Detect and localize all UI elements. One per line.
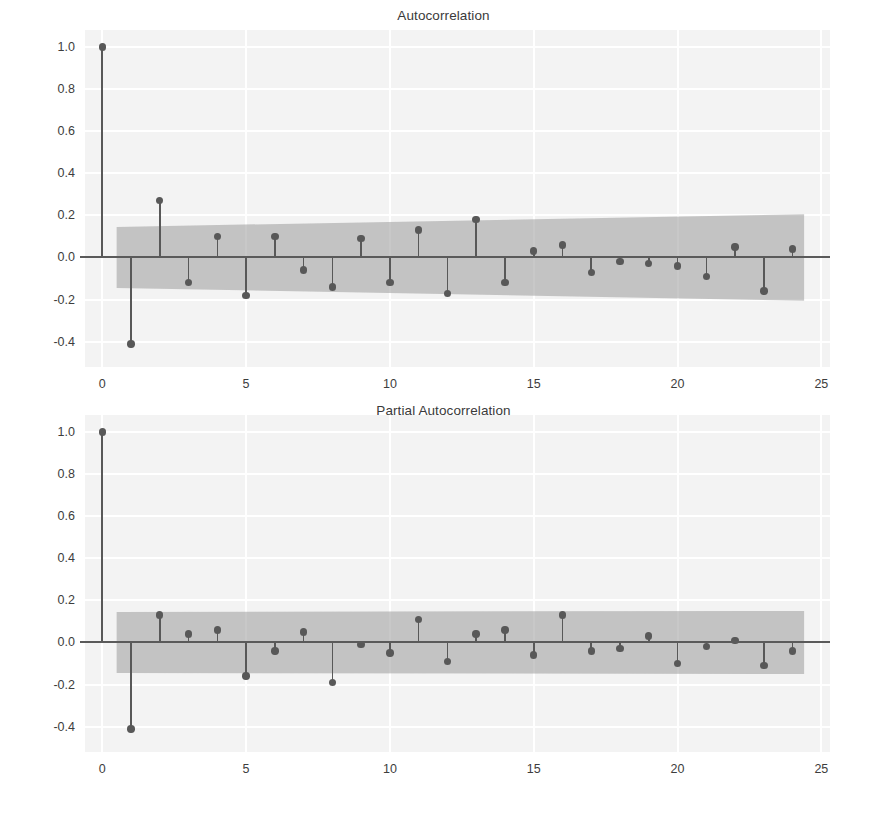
confidence-band [85, 415, 830, 752]
stem-marker [127, 725, 134, 732]
zero-axis-line [80, 641, 830, 643]
stem-marker [559, 241, 566, 248]
stem-marker [760, 287, 767, 294]
x-tick-label: 5 [243, 762, 250, 776]
stem-line [332, 642, 334, 682]
stem-line [763, 257, 765, 291]
y-tick-label: 0.2 [58, 208, 75, 222]
stem-marker [99, 43, 106, 50]
pacf-x-axis: 0510152025 [85, 762, 830, 782]
x-tick-label: 0 [99, 377, 106, 391]
y-tick-label: 0.8 [58, 82, 75, 96]
y-tick-label: 0.0 [58, 635, 75, 649]
stem-marker [789, 647, 796, 654]
x-tick-label: 15 [527, 762, 541, 776]
stem-line [562, 615, 564, 642]
stem-marker [444, 290, 451, 297]
stem-line [130, 642, 132, 728]
acf-pacf-figure: Autocorrelation 1.00.80.60.40.20.0-0.2-0… [0, 0, 887, 824]
stem-marker [271, 647, 278, 654]
stem-line [101, 47, 103, 258]
stem-marker [760, 662, 767, 669]
stem-marker [588, 647, 595, 654]
stem-marker [127, 340, 134, 347]
y-tick-label: 0.6 [58, 509, 75, 523]
stem-marker [386, 649, 393, 656]
stem-marker [300, 628, 307, 635]
x-tick-label: 25 [814, 762, 828, 776]
x-tick-label: 25 [814, 377, 828, 391]
acf-y-axis: 1.00.80.60.40.20.0-0.2-0.4 [31, 30, 75, 367]
stem-marker [386, 279, 393, 286]
x-tick-label: 20 [671, 377, 685, 391]
y-tick-label: -0.4 [53, 720, 75, 734]
pacf-y-axis: 1.00.80.60.40.20.0-0.2-0.4 [31, 415, 75, 752]
stem-line [245, 642, 247, 676]
y-tick-label: 0.8 [58, 467, 75, 481]
y-tick-label: -0.2 [53, 293, 75, 307]
stem-line [475, 220, 477, 258]
stem-line [159, 615, 161, 642]
stem-marker [214, 233, 221, 240]
stem-line [159, 201, 161, 258]
x-tick-label: 0 [99, 762, 106, 776]
y-tick-label: 0.0 [58, 250, 75, 264]
x-tick-label: 20 [671, 762, 685, 776]
stem-marker [357, 235, 364, 242]
y-tick-label: 0.4 [58, 166, 75, 180]
stem-marker [588, 269, 595, 276]
y-tick-label: -0.4 [53, 335, 75, 349]
stem-line [245, 257, 247, 295]
stem-line [447, 257, 449, 293]
stem-marker [501, 626, 508, 633]
y-tick-label: 0.4 [58, 551, 75, 565]
stem-marker [674, 262, 681, 269]
acf-plot-area [85, 30, 830, 367]
y-tick-label: 1.0 [58, 40, 75, 54]
pacf-plot-area [85, 415, 830, 752]
stem-marker [300, 266, 307, 273]
x-tick-label: 15 [527, 377, 541, 391]
stem-marker [214, 626, 221, 633]
stem-marker [329, 283, 336, 290]
stem-marker [472, 630, 479, 637]
stem-marker [559, 611, 566, 618]
x-tick-label: 10 [383, 377, 397, 391]
stem-marker [242, 292, 249, 299]
x-tick-label: 10 [383, 762, 397, 776]
stem-marker [271, 233, 278, 240]
stem-marker [99, 428, 106, 435]
stem-line [130, 257, 132, 343]
stem-marker [703, 273, 710, 280]
stem-marker [616, 258, 623, 265]
stem-line [101, 432, 103, 643]
stem-marker [501, 279, 508, 286]
stem-marker [185, 630, 192, 637]
confidence-band [85, 30, 830, 367]
y-tick-label: 0.6 [58, 124, 75, 138]
stem-marker [242, 672, 249, 679]
y-tick-label: -0.2 [53, 678, 75, 692]
partial-autocorrelation-panel: Partial Autocorrelation 1.00.80.60.40.20… [0, 390, 887, 824]
stem-marker [789, 245, 796, 252]
autocorrelation-panel: Autocorrelation 1.00.80.60.40.20.0-0.2-0… [0, 0, 887, 400]
y-tick-label: 0.2 [58, 593, 75, 607]
stem-marker [731, 243, 738, 250]
stem-marker [415, 226, 422, 233]
stem-line [418, 230, 420, 257]
zero-axis-line [80, 256, 830, 258]
acf-title: Autocorrelation [0, 8, 887, 23]
stem-marker [472, 216, 479, 223]
y-tick-label: 1.0 [58, 425, 75, 439]
x-tick-label: 5 [243, 377, 250, 391]
